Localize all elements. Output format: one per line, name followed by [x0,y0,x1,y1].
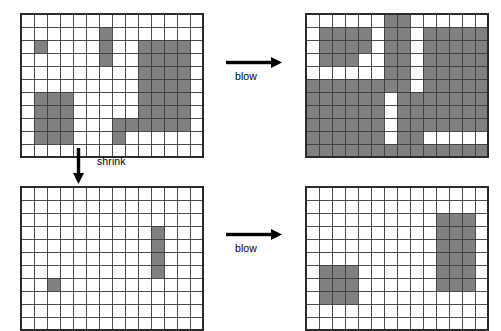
grid-cell-filled [397,118,410,131]
grid-cell-filled [47,92,60,105]
grid-cell-filled [345,278,358,291]
grid-cell-filled [423,66,436,79]
grid-cell-filled [449,53,462,66]
blown-shrunk-grid [305,186,489,331]
grid-cell-filled [319,79,332,92]
grid-cell-filled [475,66,488,79]
grid-cell-filled [462,53,475,66]
grid-cell-filled [151,40,164,53]
grid-cell-filled [34,131,47,144]
grid-cell-filled [423,105,436,118]
grid-cell-filled [449,213,462,226]
original-grid [20,13,204,158]
grid-cell-filled [138,53,151,66]
grid-cell-filled [151,92,164,105]
grid-cell-filled [449,265,462,278]
grid-cell-filled [164,105,177,118]
grid-cell-filled [436,239,449,252]
grid-cell-filled [332,131,345,144]
grid-cell-filled [47,105,60,118]
grid-cell-filled [397,92,410,105]
grid-cell-filled [319,92,332,105]
grid-cell-filled [462,118,475,131]
grid-cell-filled [358,118,371,131]
grid-cell-filled [319,131,332,144]
grid-cell-filled [319,53,332,66]
grid-cell-filled [436,278,449,291]
grid-cell-filled [410,131,423,144]
grid-cell-filled [462,213,475,226]
grid-cell-filled [138,92,151,105]
grid-cell-filled [358,40,371,53]
grid-cell-filled [462,105,475,118]
grid-cell-filled [112,131,125,144]
grid-cell-filled [151,66,164,79]
grid-cell-filled [345,79,358,92]
grid-cell-filled [449,27,462,40]
grid-cell-filled [306,92,319,105]
grid-cell-filled [345,27,358,40]
grid-cell-filled [449,226,462,239]
grid-cell-filled [60,118,73,131]
grid-cell-filled [397,79,410,92]
grid-cell-filled [449,278,462,291]
grid-cell-filled [151,226,164,239]
grid-cell-filled [332,92,345,105]
grid-cell-filled [34,40,47,53]
grid-cell-filled [436,27,449,40]
grid-cell-filled [177,118,190,131]
grid-cell-filled [423,40,436,53]
grid-cell-filled [345,131,358,144]
grid-cell-filled [319,265,332,278]
grid-cell-filled [449,92,462,105]
grid-cell-filled [151,118,164,131]
grid-cell-filled [384,27,397,40]
grid-cell-filled [384,144,397,157]
grid-cell-filled [99,53,112,66]
grid-cell-filled [358,27,371,40]
grid-cell-filled [138,40,151,53]
grid-cell-filled [371,79,384,92]
grid-cell-filled [332,79,345,92]
grid-cell-filled [319,27,332,40]
grid-cell-filled [151,265,164,278]
grid-cell-filled [99,40,112,53]
grid-cell-filled [371,118,384,131]
grid-cell-filled [177,66,190,79]
grid-cell-filled [345,144,358,157]
grid-cell-filled [462,27,475,40]
grid-cell-filled [138,66,151,79]
grid-cell-filled [306,105,319,118]
grid-cell-filled [371,131,384,144]
grid-cell-filled [151,239,164,252]
grid-cell-filled [423,92,436,105]
grid-cell-filled [164,40,177,53]
arrow-down-icon [72,148,85,184]
grid-cell-filled [99,27,112,40]
grid-cell-filled [177,40,190,53]
grid-cell-filled [358,92,371,105]
shrunk-grid [20,186,204,331]
grid-cell-filled [332,278,345,291]
grid-cell-filled [358,105,371,118]
blown-original-grid [305,13,489,158]
grid-cell-filled [345,105,358,118]
grid-cell-filled [410,144,423,157]
grid-cell-filled [462,252,475,265]
grid-cell-filled [449,66,462,79]
grid-cell-filled [177,92,190,105]
grid-cell-filled [436,226,449,239]
grid-cell-filled [371,144,384,157]
grid-cell-filled [436,118,449,131]
grid-cell-filled [449,144,462,157]
grid-cell-filled [151,252,164,265]
grid-cell-filled [306,131,319,144]
grid-cell-filled [397,66,410,79]
grid-cell-filled [319,118,332,131]
grid-cell-filled [371,92,384,105]
grid-cell-filled [462,278,475,291]
grid-cell-filled [345,265,358,278]
grid-cell-filled [436,40,449,53]
grid-cell-filled [319,291,332,304]
